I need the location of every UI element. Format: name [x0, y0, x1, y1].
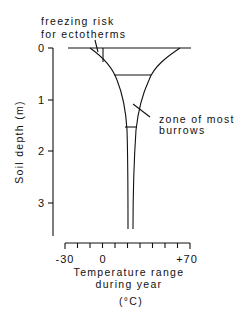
freezing-risk-pointer — [95, 40, 98, 52]
y-axis: 0 1 2 3 Soil depth (m) — [13, 42, 53, 236]
x-tick-0: 0 — [99, 253, 106, 265]
soil-temperature-diagram: 0 1 2 3 Soil depth (m) -30 0 +70 Tempera… — [0, 0, 243, 320]
y-tick-1: 1 — [38, 94, 45, 106]
y-tick-3: 3 — [38, 197, 45, 209]
x-axis: -30 0 +70 Temperature range during year … — [56, 243, 198, 307]
freezing-risk-label-line1: freezing risk — [41, 15, 115, 27]
x-tick-minus30: -30 — [56, 253, 75, 265]
y-tick-2: 2 — [38, 145, 45, 157]
x-axis-unit: (°C) — [119, 295, 143, 307]
annotation-burrow-zone: zone of most burrows — [133, 104, 235, 136]
burrow-zone-pointer — [133, 104, 150, 117]
y-axis-label: Soil depth (m) — [13, 100, 25, 184]
x-tick-plus70: +70 — [176, 253, 198, 265]
temperature-envelope — [68, 48, 191, 229]
burrow-zone-label-line2: burrows — [159, 124, 205, 136]
x-axis-label-line1: Temperature range — [74, 266, 185, 278]
y-tick-0: 0 — [38, 42, 45, 54]
x-axis-label-line2: during year — [96, 278, 163, 290]
freezing-risk-label-line2: for ectotherms — [41, 28, 126, 40]
annotation-freezing-risk: freezing risk for ectotherms — [41, 15, 126, 52]
